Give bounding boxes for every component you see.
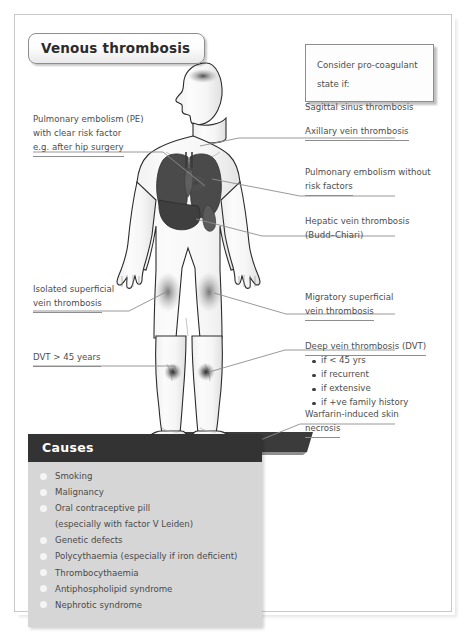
label-sagittal-sinus-thrombosis: Sagittal sinus thrombosis (305, 101, 414, 115)
label-line: Migratory superficial (305, 291, 393, 305)
pro-coagulant-line-2: state if: (317, 79, 350, 89)
label-line: with clear risk factor (33, 127, 144, 141)
label-line: DVT > 45 years (33, 351, 101, 367)
label-line: Pulmonary embolism (PE) (33, 113, 144, 127)
label-dvt-over-45-years: DVT > 45 years (33, 351, 101, 367)
label-line: Sagittal sinus thrombosis (305, 101, 414, 115)
list-item: if recurrent (311, 370, 408, 379)
label-line: necrosis (305, 422, 340, 438)
list-item: Smoking (38, 471, 252, 483)
label-line: vein thrombosis (305, 305, 374, 321)
list-item: Antiphospholipid syndrome (38, 584, 252, 596)
label-line: risk factors (305, 180, 353, 196)
label-line: Axillary vein thrombosis (305, 125, 409, 141)
label-line: (Budd–Chiari) (305, 229, 409, 243)
label-isolated-superficial-vein-thrombosis: Isolated superficial vein thrombosis (33, 283, 114, 313)
label-axillary-vein-thrombosis: Axillary vein thrombosis (305, 125, 409, 141)
causes-heading: Causes (28, 434, 262, 462)
list-item: Polycythaemia (especially if iron defici… (38, 551, 252, 563)
label-deep-vein-thrombosis: Deep vein thrombosis (DVT) (305, 340, 426, 356)
list-item: if +ve family history (311, 398, 408, 407)
label-migratory-superficial-vein-thrombosis: Migratory superficial vein thrombosis (305, 291, 393, 321)
causes-body: Smoking Malignancy Oral contraceptive pi… (28, 462, 262, 627)
list-item: Thrombocythaemia (38, 568, 252, 580)
label-warfarin-induced-skin-necrosis: Warfarin-induced skin necrosis (305, 408, 399, 438)
list-item: if < 45 yrs (311, 356, 408, 365)
label-line: vein thrombosis (33, 297, 102, 313)
page-title: Venous thrombosis (28, 33, 205, 64)
dvt-criteria-list: if < 45 yrs if recurrent if extensive if… (311, 356, 408, 412)
list-item: Nephrotic syndrome (38, 600, 252, 612)
label-line: e.g. after hip surgery (33, 141, 124, 157)
pro-coagulant-box: Consider pro-coagulant state if: (305, 44, 434, 102)
label-line: Pulmonary embolism without (305, 166, 431, 180)
list-item: Genetic defects (38, 535, 252, 547)
label-line: Deep vein thrombosis (DVT) (305, 340, 426, 356)
diagram-page: Venous thrombosis Consider pro-coagulant… (0, 0, 470, 632)
pro-coagulant-line-1: Consider pro-coagulant (317, 60, 418, 70)
dvt-criteria-items: if < 45 yrs if recurrent if extensive if… (311, 356, 408, 407)
causes-list: Smoking Malignancy Oral contraceptive pi… (38, 471, 252, 611)
label-line: Hepatic vein thrombosis (305, 215, 409, 229)
label-pe-with-risk-factor: Pulmonary embolism (PE) with clear risk … (33, 113, 144, 157)
causes-panel: Causes Smoking Malignancy Oral contracep… (28, 434, 262, 627)
label-pe-without-risk-factors: Pulmonary embolism without risk factors (305, 166, 431, 196)
label-line: Warfarin-induced skin (305, 408, 399, 422)
label-line: Isolated superficial (33, 283, 114, 297)
list-item: if extensive (311, 384, 408, 393)
label-hepatic-vein-thrombosis: Hepatic vein thrombosis (Budd–Chiari) (305, 215, 409, 243)
list-item: Oral contraceptive pill (38, 503, 252, 515)
list-item-continuation: (especially with factor V Leiden) (38, 519, 252, 531)
list-item: Malignancy (38, 487, 252, 499)
